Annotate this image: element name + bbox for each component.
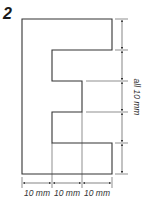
- e-shape-outline: [22, 19, 112, 174]
- dim-label-right: all 10 mm: [132, 79, 142, 116]
- vertical-extension-lines: [22, 112, 112, 188]
- dim-label-bottom-3: 10 mm: [84, 188, 110, 198]
- e-shape-diagram: 10 mm 10 mm 10 mm all 10 mm: [0, 0, 154, 214]
- dim-label-bottom-1: 10 mm: [24, 188, 50, 198]
- dim-label-bottom-2: 10 mm: [54, 188, 80, 198]
